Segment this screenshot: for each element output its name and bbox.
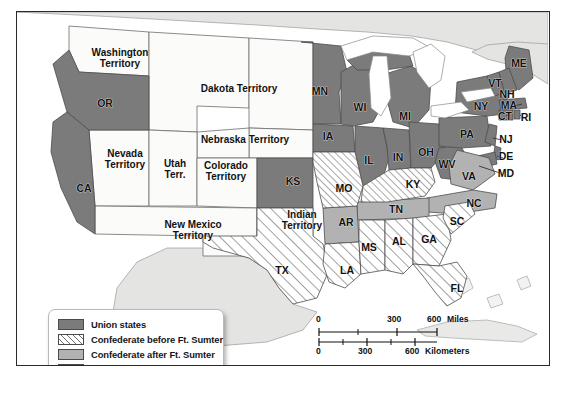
legend-swatch-confederate-after (58, 349, 84, 360)
civil-war-map-figure: ORCAKSMNWIMIIAILINOHWVPANYMEVTNHMACTRINJ… (0, 0, 566, 409)
territory-label-new-mexico: New MexicoTerritory (164, 219, 221, 241)
state-label-oh: OH (418, 146, 434, 158)
state-label-ms: MS (361, 241, 377, 253)
state-label-ks: KS (286, 175, 301, 187)
state-label-or: OR (97, 97, 113, 109)
state-label-wv: WV (439, 158, 456, 170)
legend-label-confederate-before: Confederate before Ft. Sumter (91, 334, 223, 345)
territory-label-utah: UtahTerr. (164, 158, 186, 180)
territory-label-nevada: NevadaTerritory (105, 148, 146, 170)
state-label-ky: KY (406, 178, 421, 190)
map-legend: Union states Confederate before Ft. Sumt… (48, 309, 224, 366)
map-scale-bar: 0 300 600 Miles 0 300 600 Kilometers (315, 318, 465, 358)
state-label-al: AL (392, 235, 407, 247)
scale-miles-unit: Miles (447, 314, 469, 324)
legend-item-union: Union states (58, 317, 215, 331)
state-label-nj: NJ (499, 133, 513, 145)
state-label-me: ME (511, 57, 527, 69)
scale-km-label-300: 300 (358, 346, 372, 356)
state-ia-shape (313, 124, 355, 152)
state-label-mi: MI (399, 110, 411, 122)
state-label-fl: FL (451, 282, 464, 294)
scale-km-label-600: 600 (405, 346, 419, 356)
state-label-la: LA (340, 264, 354, 276)
territory-label-dakota-territory: Dakota Territory (201, 83, 278, 94)
state-label-mn: MN (312, 85, 328, 97)
legend-swatch-union (58, 319, 84, 330)
state-label-ri: RI (521, 111, 532, 123)
state-label-tx: TX (275, 264, 288, 276)
state-label-in: IN (393, 151, 404, 163)
scale-miles-label-0: 0 (316, 314, 321, 324)
state-label-ia: IA (323, 130, 334, 142)
legend-label-border: Border states (91, 364, 150, 367)
state-label-md: MD (498, 167, 515, 179)
territory-label-nebraska-territory: Nebraska Territory (201, 134, 290, 145)
state-label-pa: PA (460, 128, 474, 140)
legend-item-confederate-before: Confederate before Ft. Sumter (58, 332, 215, 346)
territory-label-colorado: ColoradoTerritory (204, 160, 248, 182)
scale-km-label-0: 0 (316, 346, 321, 356)
legend-swatch-confederate-before (58, 334, 84, 345)
legend-swatch-border (58, 364, 84, 367)
scale-km-unit: Kilometers (425, 346, 469, 356)
scale-miles-label-600: 600 (427, 314, 441, 324)
state-ri-shape (514, 110, 520, 119)
state-label-ga: GA (421, 233, 437, 245)
state-label-va: VA (462, 170, 476, 182)
legend-label-union: Union states (91, 319, 146, 330)
state-label-ny: NY (474, 100, 489, 112)
state-label-wi: WI (354, 101, 367, 113)
legend-item-confederate-after: Confederate after Ft. Sumter (58, 347, 215, 361)
legend-label-confederate-after: Confederate after Ft. Sumter (91, 349, 215, 360)
state-label-ct: CT (498, 110, 513, 122)
state-label-ar: AR (338, 216, 354, 228)
territory-label-washington: WashingtonTerritory (92, 47, 149, 69)
state-label-mo: MO (336, 182, 353, 194)
legend-item-border: Border states (58, 362, 215, 366)
state-label-sc: SC (450, 215, 465, 227)
state-label-de: DE (499, 150, 514, 162)
state-label-nc: NC (466, 197, 482, 209)
map-frame: ORCAKSMNWIMIIAILINOHWVPANYMEVTNHMACTRINJ… (16, 11, 550, 366)
territory-label-indian: IndianTerritory (282, 209, 323, 231)
state-label-tn: TN (389, 203, 403, 215)
scale-miles-label-300: 300 (387, 314, 401, 324)
state-label-il: IL (364, 154, 374, 166)
state-label-ca: CA (76, 182, 92, 194)
